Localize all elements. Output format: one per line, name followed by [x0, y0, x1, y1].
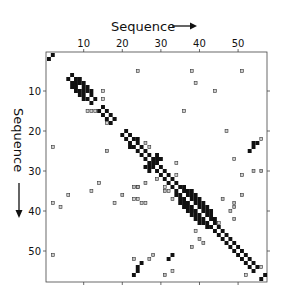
solid-cell: [248, 149, 252, 153]
solid-cell: [140, 153, 144, 157]
hatched-cell: [233, 206, 236, 209]
solid-cell: [182, 185, 186, 189]
solid-cell: [174, 193, 178, 197]
hatched-cell: [233, 218, 236, 221]
solid-cell: [147, 165, 151, 169]
dotted-cell: [102, 90, 105, 93]
dotted-cell: [241, 70, 244, 73]
solid-cell: [155, 157, 159, 161]
solid-cell: [86, 97, 90, 101]
hatched-cell: [171, 198, 174, 201]
dotted-cell: [213, 90, 216, 93]
dotted-cell: [175, 162, 178, 165]
solid-cell: [178, 185, 182, 189]
dotted-cell: [59, 206, 62, 209]
solid-cell: [201, 221, 205, 225]
solid-cell: [194, 197, 198, 201]
dotted-cell: [194, 230, 197, 233]
dotted-cell: [113, 202, 116, 205]
hatched-cell: [202, 242, 205, 245]
solid-cell: [182, 205, 186, 209]
solid-cell: [248, 265, 252, 269]
y-tick-label: 20: [28, 126, 41, 137]
solid-cell: [140, 261, 144, 265]
solid-cell: [201, 201, 205, 205]
hatched-cell: [132, 258, 135, 261]
x-tick-label: 10: [77, 38, 90, 49]
solid-cell: [255, 141, 259, 145]
dotted-cell: [260, 266, 263, 269]
solid-cell: [74, 89, 78, 93]
solid-cell: [178, 201, 182, 205]
solid-cell: [78, 77, 82, 81]
dotted-cell: [136, 198, 139, 201]
solid-cell: [174, 189, 178, 193]
solid-cell: [190, 205, 194, 209]
solid-cell: [113, 117, 117, 121]
dotted-cell: [132, 198, 135, 201]
solid-cell: [78, 81, 82, 85]
hatched-cell: [241, 194, 244, 197]
x-axis-label: Sequence: [111, 19, 175, 34]
hatched-cell: [121, 194, 124, 197]
dotted-cell: [244, 274, 247, 277]
solid-cell: [236, 245, 240, 249]
solid-cell: [213, 217, 217, 221]
solid-cell: [178, 193, 182, 197]
solid-cell: [194, 209, 198, 213]
dotted-cell: [90, 110, 93, 113]
solid-cell: [167, 181, 171, 185]
solid-cell: [124, 137, 128, 141]
dotted-cell: [171, 270, 174, 273]
match-cells: [47, 53, 267, 281]
solid-cell: [205, 209, 209, 213]
solid-cell: [182, 201, 186, 205]
solid-cell: [198, 205, 202, 209]
y-axis-title: Sequence: [11, 108, 26, 218]
solid-cell: [120, 133, 124, 137]
plot-frame: [46, 52, 267, 282]
hatched-cell: [233, 202, 236, 205]
x-tick-label: 50: [232, 38, 245, 49]
solid-cell: [78, 89, 82, 93]
solid-cell: [82, 89, 86, 93]
solid-cell: [190, 213, 194, 217]
solid-cell: [136, 137, 140, 141]
y-axis-label: Sequence: [11, 108, 26, 172]
solid-cell: [132, 273, 136, 277]
solid-cell: [105, 109, 109, 113]
hatched-cell: [190, 246, 193, 249]
solid-cell: [86, 85, 90, 89]
solid-cell: [248, 257, 252, 261]
solid-cell: [109, 121, 113, 125]
solid-cell: [128, 133, 132, 137]
solid-cell: [255, 265, 259, 269]
solid-cell: [240, 249, 244, 253]
solid-cell: [252, 269, 256, 273]
solid-cell: [217, 225, 221, 229]
solid-cell: [198, 221, 202, 225]
hatched-cell: [152, 254, 155, 257]
y-tick-label: 50: [28, 246, 41, 257]
dotted-cell: [86, 110, 89, 113]
solid-cell: [147, 169, 151, 173]
solid-cell: [225, 241, 229, 245]
hatched-cell: [229, 210, 232, 213]
hatched-cell: [163, 274, 166, 277]
solid-cell: [182, 189, 186, 193]
dotted-cell: [260, 138, 263, 141]
hatched-cell: [144, 142, 147, 145]
solid-cell: [232, 241, 236, 245]
x-tick-label: 40: [193, 38, 206, 49]
solid-cell: [213, 229, 217, 233]
solid-cell: [89, 93, 93, 97]
solid-cell: [163, 177, 167, 181]
solid-cell: [144, 165, 148, 169]
solid-cell: [186, 209, 190, 213]
solid-cell: [252, 261, 256, 265]
solid-cell: [93, 97, 97, 101]
solid-cell: [228, 237, 232, 241]
solid-cell: [186, 205, 190, 209]
dotted-cell: [98, 182, 101, 185]
solid-cell: [228, 245, 232, 249]
